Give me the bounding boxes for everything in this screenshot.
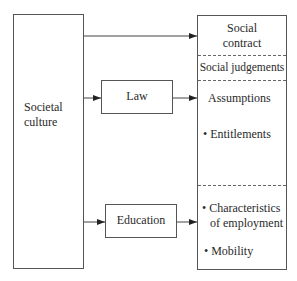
entitlements-bullet: • Entitlements: [203, 127, 271, 142]
assumptions-heading: Assumptions: [208, 91, 271, 106]
outcome-panel: [197, 15, 287, 270]
divider-2: [198, 80, 286, 81]
social-contract-label-1: Social: [197, 21, 287, 36]
mobility-bullet: • Mobility: [204, 244, 253, 259]
social-judgements-label: Social judgements: [197, 60, 287, 75]
law-label: Law: [101, 89, 173, 104]
characteristics-bullet-2: of employment: [210, 216, 283, 231]
characteristics-bullet-1: • Characteristics: [202, 201, 281, 216]
societal-culture-box: [13, 14, 84, 269]
societal-culture-label-2: culture: [24, 115, 57, 130]
societal-culture-label-1: Societal: [24, 100, 63, 115]
divider-3: [198, 185, 286, 186]
divider-1: [198, 55, 286, 56]
social-contract-label-2: contract: [197, 36, 287, 51]
education-label: Education: [105, 213, 177, 228]
